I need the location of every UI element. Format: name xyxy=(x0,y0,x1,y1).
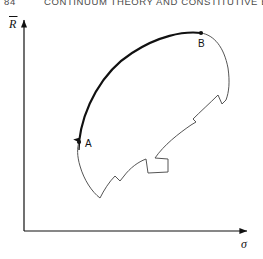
point-b-marker xyxy=(199,31,203,35)
bold-loading-path-a-to-b xyxy=(79,33,201,142)
point-a-label: A xyxy=(85,138,92,149)
y-axis-label-group: R xyxy=(8,17,18,32)
x-axis-label: σ xyxy=(241,237,248,251)
loading-path-figure: R σ A B xyxy=(0,0,263,259)
figure-page: 84 CONTINUUM THEORY AND CONSTITUTIVE EQU… xyxy=(0,0,263,259)
point-a-marker xyxy=(77,140,81,144)
outer-boundary-curve xyxy=(201,33,229,100)
lower-left-return-curve xyxy=(78,142,100,198)
point-b-label: B xyxy=(198,38,205,49)
y-axis-label: R xyxy=(8,17,17,31)
inner-notched-boundary xyxy=(100,95,226,198)
